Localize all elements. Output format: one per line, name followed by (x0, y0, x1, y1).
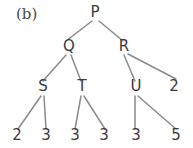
tree-leaf-l5: 3 (131, 126, 141, 144)
tree-node-p: P (90, 3, 99, 21)
tree-node-u: U (131, 77, 142, 95)
tree-node-r: R (119, 37, 129, 55)
panel-label: (b) (16, 5, 37, 23)
tree-edge-s-l1 (18, 96, 41, 129)
tree-edge-t-l3 (75, 96, 81, 129)
tree-leaf-l2: 3 (41, 126, 51, 144)
tree-leaf-l0: 2 (169, 77, 179, 95)
tree-leaf-l1: 2 (12, 126, 22, 144)
tree-canvas: PQRSTU2233335 (b) (0, 0, 193, 148)
tree-diagram-figure: PQRSTU2233335 (b) (0, 0, 193, 148)
tree-edges (18, 21, 176, 129)
tree-edge-r-l0 (128, 54, 176, 79)
tree-edge-t-l4 (84, 96, 105, 129)
tree-leaf-l4: 3 (99, 126, 109, 144)
tree-node-q: Q (63, 37, 75, 55)
tree-node-s: S (38, 77, 48, 95)
tree-edge-s-l2 (44, 96, 46, 129)
tree-leaf-l6: 5 (171, 126, 181, 144)
tree-edge-u-l6 (138, 96, 176, 129)
tree-nodes: PQRSTU2233335 (12, 3, 181, 144)
tree-leaf-l3: 3 (70, 126, 80, 144)
tree-node-t: T (76, 77, 87, 95)
